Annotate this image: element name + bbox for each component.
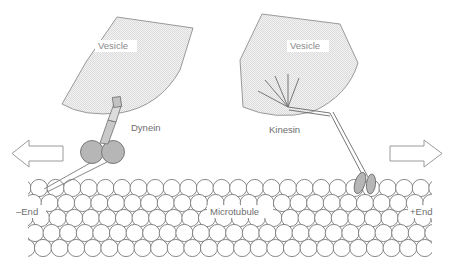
tubulin-subunit	[217, 239, 234, 256]
tubulin-subunit	[307, 194, 324, 211]
tubulin-subunit	[91, 194, 108, 211]
tubulin-subunit	[68, 239, 85, 256]
tubulin-subunit	[273, 194, 290, 211]
tubulin-subunit	[408, 224, 425, 241]
tubulin-subunit	[58, 194, 75, 211]
dynein-cap	[112, 96, 121, 107]
microtubule: Microtubule	[14, 179, 448, 256]
tubulin-subunit	[234, 239, 251, 256]
tubulin-subunit	[275, 224, 292, 241]
tubulin-subunit	[323, 194, 340, 211]
tubulin-subunit	[117, 239, 134, 256]
tubulin-subunit	[143, 224, 160, 241]
tubulin-subunit	[60, 224, 77, 241]
tubulin-subunit	[392, 224, 409, 241]
tubulin-subunit	[26, 224, 43, 241]
tubulin-subunit	[192, 224, 209, 241]
tubulin-subunit	[350, 239, 367, 256]
tubulin-subunit	[292, 224, 309, 241]
vesicle-left-shape	[62, 17, 193, 114]
tubulin-subunit	[159, 224, 176, 241]
plus-end-direction-arrow	[390, 140, 442, 167]
tubulin-subunit	[390, 194, 407, 211]
tubulin-subunit	[373, 194, 390, 211]
tubulin-subunit	[259, 224, 276, 241]
tubulin-subunit	[43, 224, 60, 241]
tubulin-subunit	[358, 224, 375, 241]
tubulin-subunit	[174, 194, 191, 211]
tubulin-subunit	[124, 194, 141, 211]
tubulin-subunit	[283, 239, 300, 256]
tubulin-subunit	[400, 239, 417, 256]
tubulin-subunit	[84, 239, 101, 256]
tubulin-subunit	[14, 179, 31, 196]
microtubule-motors-diagram: Vesicle Vesicle Microtubule D	[0, 0, 456, 273]
dynein-label: Dynein	[131, 122, 161, 133]
tubulin-subunit	[325, 224, 342, 241]
tubulin-subunit	[425, 224, 442, 241]
kinesin-label: Kinesin	[269, 124, 300, 135]
tubulin-subunit	[383, 239, 400, 256]
tubulin-subunit	[226, 224, 243, 241]
vesicle-left: Vesicle	[62, 17, 193, 114]
tubulin-subunit	[366, 239, 383, 256]
tubulin-subunit	[184, 239, 201, 256]
tubulin-subunit	[76, 224, 93, 241]
minus-end-label: –End	[16, 206, 38, 217]
tubulin-subunit	[18, 239, 35, 256]
tubulin-subunit	[342, 224, 359, 241]
minus-end-direction-arrow	[12, 140, 63, 167]
tubulin-subunit	[209, 224, 226, 241]
tubulin-subunit	[93, 224, 110, 241]
tubulin-subunit	[107, 194, 124, 211]
minus-end-label-group: –End	[14, 205, 46, 218]
tubulin-subunit	[134, 239, 151, 256]
tubulin-subunit	[167, 239, 184, 256]
vesicle-right: Vesicle	[240, 14, 358, 116]
tubulin-subunit	[109, 224, 126, 241]
tubulin-subunit	[74, 194, 91, 211]
tubulin-subunit	[200, 239, 217, 256]
tubulin-subunit	[290, 194, 307, 211]
tubulin-subunit	[157, 194, 174, 211]
tubulin-subunit	[151, 239, 168, 256]
vesicle-right-label: Vesicle	[290, 40, 320, 51]
vesicle-right-shape	[240, 14, 358, 116]
tubulin-subunit	[340, 194, 357, 211]
tubulin-subunit	[190, 194, 207, 211]
tubulin-subunit	[375, 224, 392, 241]
tubulin-subunit	[300, 239, 317, 256]
plus-end-label: +End	[410, 206, 432, 217]
kinesin-stalk-edge-2	[333, 112, 368, 177]
tubulin-subunit	[34, 239, 51, 256]
dynein-head-1	[81, 141, 104, 164]
tubulin-subunit	[333, 239, 350, 256]
tubulin-subunit	[267, 239, 284, 256]
tubulin-subunit	[51, 239, 68, 256]
tubulin-subunit	[101, 239, 118, 256]
tubulin-subunit	[309, 224, 326, 241]
tubulin-subunit	[176, 224, 193, 241]
tubulin-subunit	[126, 224, 143, 241]
tubulin-subunit	[250, 239, 267, 256]
microtubule-label: Microtubule	[210, 206, 259, 217]
plus-end-arrow-shape	[390, 140, 442, 167]
vesicle-left-label: Vesicle	[98, 40, 128, 51]
minus-end-arrow-shape	[12, 140, 63, 167]
plus-end-label-group: +End	[408, 205, 440, 218]
tubulin-subunit	[242, 224, 259, 241]
tubulin-subunit	[356, 194, 373, 211]
tubulin-subunit	[416, 239, 433, 256]
kinesin-stalk-edge-1	[330, 113, 364, 178]
tubulin-subunit	[141, 194, 158, 211]
tubulin-subunit	[317, 239, 334, 256]
